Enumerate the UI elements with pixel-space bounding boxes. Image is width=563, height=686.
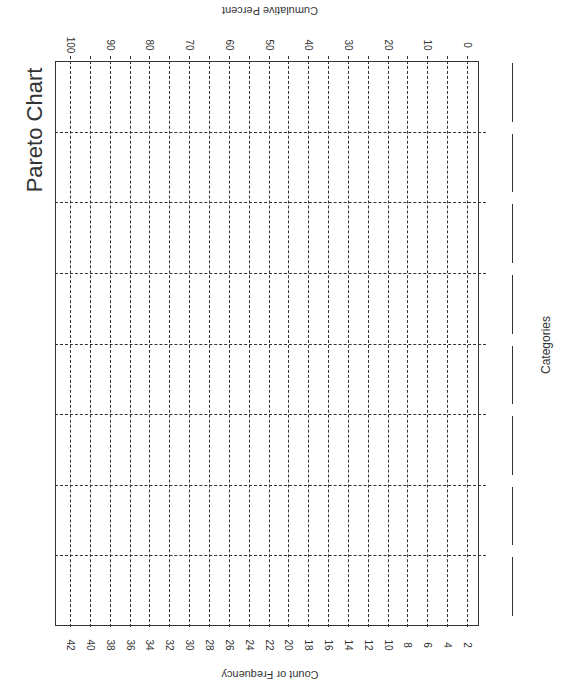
category-divider <box>55 132 486 133</box>
count-tick-label: 36 <box>124 639 135 650</box>
category-divider <box>55 414 486 415</box>
count-gridline <box>249 56 250 627</box>
count-gridline <box>269 56 270 627</box>
category-label-blank[interactable] <box>512 346 513 405</box>
category-label-blank[interactable] <box>512 204 513 263</box>
count-tick-label: 14 <box>342 639 353 650</box>
count-gridline <box>388 56 389 627</box>
count-tick-label: 12 <box>362 639 373 650</box>
percent-tick-label: 30 <box>342 39 353 50</box>
count-gridline <box>189 56 190 627</box>
category-divider <box>55 273 486 274</box>
category-label-blank[interactable] <box>512 557 513 616</box>
category-label-blank[interactable] <box>512 487 513 546</box>
count-gridline <box>90 56 91 627</box>
count-tick-label: 22 <box>263 639 274 650</box>
count-tick-label: 26 <box>223 639 234 650</box>
count-gridline <box>149 56 150 627</box>
count-gridline <box>229 56 230 627</box>
count-tick-label: 10 <box>382 639 393 650</box>
category-divider <box>55 344 486 345</box>
percent-tick-label: 100 <box>65 37 76 54</box>
percent-tick-label: 20 <box>382 39 393 50</box>
categories-axis-title: Categories <box>539 316 553 374</box>
percent-tick-label: 60 <box>223 39 234 50</box>
percent-tick-label: 70 <box>184 39 195 50</box>
category-label-blank[interactable] <box>512 275 513 334</box>
count-tick-label: 42 <box>65 639 76 650</box>
count-tick-label: 6 <box>422 642 433 648</box>
count-gridline <box>447 56 448 627</box>
percent-tick-label: 80 <box>144 39 155 50</box>
percent-tick-label: 10 <box>422 39 433 50</box>
percent-tick-label: 50 <box>263 39 274 50</box>
count-gridline <box>308 56 309 627</box>
count-tick-label: 24 <box>243 639 254 650</box>
category-label-blank[interactable] <box>512 134 513 193</box>
count-frequency-axis-title: Count or Frequency <box>221 669 318 681</box>
count-gridline <box>288 56 289 627</box>
cumulative-percent-axis-title: Cumulative Percent <box>222 5 318 17</box>
category-divider <box>55 555 486 556</box>
count-gridline <box>407 56 408 627</box>
count-tick-label: 2 <box>462 642 473 648</box>
category-divider <box>55 202 486 203</box>
count-gridline <box>110 56 111 627</box>
count-tick-label: 20 <box>283 639 294 650</box>
count-tick-label: 40 <box>84 639 95 650</box>
count-gridline <box>169 56 170 627</box>
count-gridline <box>348 56 349 627</box>
count-gridline <box>70 56 71 627</box>
chart-title: Pareto Chart <box>22 68 48 193</box>
count-gridline <box>328 56 329 627</box>
count-tick-label: 32 <box>164 639 175 650</box>
count-gridline <box>427 56 428 627</box>
count-gridline <box>368 56 369 627</box>
category-label-blank[interactable] <box>512 63 513 122</box>
count-tick-label: 4 <box>442 642 453 648</box>
percent-tick-label: 0 <box>462 42 473 48</box>
category-label-blank[interactable] <box>512 416 513 475</box>
count-tick-label: 16 <box>323 639 334 650</box>
count-gridline <box>130 56 131 627</box>
count-gridline <box>467 56 468 627</box>
percent-tick-label: 40 <box>303 39 314 50</box>
category-divider <box>55 485 486 486</box>
percent-tick-label: 90 <box>104 39 115 50</box>
count-tick-label: 38 <box>104 639 115 650</box>
count-tick-label: 34 <box>144 639 155 650</box>
count-tick-label: 28 <box>203 639 214 650</box>
count-gridline <box>209 56 210 627</box>
count-tick-label: 18 <box>303 639 314 650</box>
count-tick-label: 30 <box>184 639 195 650</box>
count-tick-label: 8 <box>402 642 413 648</box>
